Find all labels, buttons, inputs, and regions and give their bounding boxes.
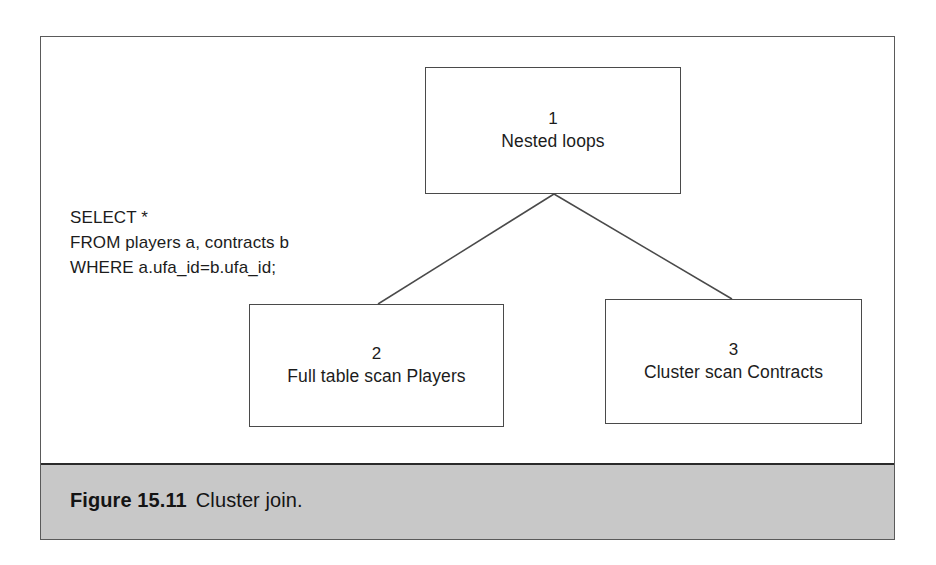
sql-query-text: SELECT * FROM players a, contracts b WHE… — [70, 206, 289, 280]
node-label-2: Full table scan Players — [287, 365, 465, 387]
sql-line-from: FROM players a, contracts b — [70, 231, 289, 256]
connector-line-1-to-2 — [378, 194, 554, 304]
sql-line-where: WHERE a.ufa_id=b.ufa_id; — [70, 256, 289, 281]
node-id-3: 3 — [729, 339, 739, 361]
node-label-3: Cluster scan Contracts — [644, 361, 823, 383]
figure-container: 1 Nested loops 2 Full table scan Players… — [0, 0, 936, 565]
figure-caption-band: Figure 15.11Cluster join. — [41, 463, 894, 539]
connector-line-1-to-3 — [554, 194, 732, 299]
figure-caption: Figure 15.11Cluster join. — [70, 489, 303, 512]
node-box-full-table-scan-players[interactable]: 2 Full table scan Players — [249, 304, 504, 427]
figure-frame: 1 Nested loops 2 Full table scan Players… — [40, 36, 895, 540]
node-id-2: 2 — [372, 343, 382, 365]
figure-caption-title: Cluster join. — [196, 489, 303, 511]
diagram-canvas: 1 Nested loops 2 Full table scan Players… — [41, 37, 894, 463]
sql-line-select: SELECT * — [70, 206, 289, 231]
node-box-nested-loops[interactable]: 1 Nested loops — [425, 67, 681, 194]
node-box-cluster-scan-contracts[interactable]: 3 Cluster scan Contracts — [605, 299, 862, 424]
node-label-1: Nested loops — [501, 130, 604, 152]
figure-caption-number: Figure 15.11 — [70, 489, 187, 511]
node-id-1: 1 — [548, 108, 558, 130]
